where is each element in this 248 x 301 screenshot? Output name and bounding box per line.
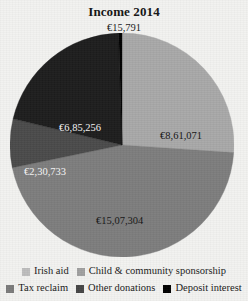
legend-item[interactable]: Tax reclaim xyxy=(6,283,68,294)
slice-value-label: €15,07,304 xyxy=(96,216,143,227)
legend-item[interactable]: Child & community sponsorship xyxy=(77,266,226,277)
legend-item[interactable]: Deposit interest xyxy=(163,283,241,294)
legend-item-label: Deposit interest xyxy=(175,283,241,294)
legend-swatch-icon xyxy=(22,268,30,276)
chart-legend: Irish aidChild & community sponsorshipTa… xyxy=(0,263,248,297)
legend-swatch-icon xyxy=(163,285,171,293)
legend-swatch-icon xyxy=(77,268,85,276)
chart-title: Income 2014 xyxy=(0,4,248,20)
legend-row: Tax reclaimOther donationsDeposit intere… xyxy=(0,280,248,297)
legend-row: Irish aidChild & community sponsorship xyxy=(0,263,248,280)
legend-item-label: Tax reclaim xyxy=(18,283,68,294)
slice-value-label: €2,30,733 xyxy=(24,167,66,178)
legend-item-label: Child & community sponsorship xyxy=(89,266,226,277)
legend-item-label: Irish aid xyxy=(34,266,69,277)
slice-value-label: €8,61,071 xyxy=(160,131,202,142)
pie-chart-area: €8,61,071€15,07,304€2,30,733€6,85,256 xyxy=(10,33,234,257)
legend-item[interactable]: Other donations xyxy=(76,283,155,294)
slice-value-label-deposit-interest: €15,791 xyxy=(0,22,248,33)
legend-swatch-icon xyxy=(6,285,14,293)
legend-item-label: Other donations xyxy=(88,283,155,294)
legend-swatch-icon xyxy=(76,285,84,293)
pie-slice[interactable] xyxy=(12,145,233,257)
slice-value-label: €6,85,256 xyxy=(59,123,101,134)
legend-item[interactable]: Irish aid xyxy=(22,266,69,277)
pie-chart-figure: Income 2014 €15,791 €8,61,071€15,07,304€… xyxy=(0,0,248,301)
